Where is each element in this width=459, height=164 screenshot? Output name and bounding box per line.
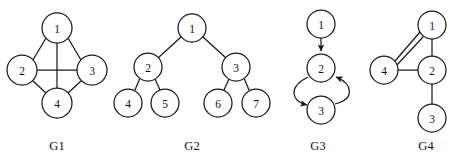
g4-node-3: 3 [418,104,446,132]
g2-edge-2-5 [155,79,160,90]
g2-node-2-label: 2 [145,62,151,74]
g4-node-1: 1 [418,11,446,39]
g2-node-6-label: 6 [215,98,221,110]
g1-edge-2-4 [33,81,46,93]
g1-node-1: 1 [42,13,72,43]
g4-node-2-label: 2 [429,65,435,77]
g1-node-4: 4 [42,88,72,118]
g2-node-5: 5 [151,89,179,117]
g3-edge-3-to-2-arc [335,77,349,104]
g1-node-4-label: 4 [54,98,60,110]
g2-edge-1-3 [203,37,226,58]
g3-node-2: 2 [307,54,335,82]
g2-node-2: 2 [134,53,162,81]
g4-node-4-label: 4 [381,65,387,77]
g1-node-3: 3 [77,55,107,85]
g1-node-3-label: 3 [89,65,95,77]
g2-node-6: 6 [204,89,232,117]
g3-node-3: 3 [307,96,335,124]
g2-node-3-label: 3 [233,62,239,74]
g1-node-2: 2 [7,55,37,85]
g1-node-1-label: 1 [54,23,60,35]
g2-edge-3-6 [224,79,229,90]
graph-diagram-canvas: 1 2 3 4 G1 [0,0,459,164]
g4-node-1-label: 1 [429,20,435,32]
g3-caption: G3 [310,139,325,153]
g2-edge-3-7 [244,78,249,90]
g4-node-2: 2 [418,56,446,84]
g3-node-1-label: 1 [318,19,324,31]
g1-node-2-label: 2 [19,65,25,77]
g2-node-5-label: 5 [162,98,168,110]
g2-caption: G2 [184,139,199,153]
g2-edge-2-4 [135,78,140,90]
g3-edge-2-to-3-arc [294,77,308,105]
g2-node-1: 1 [178,14,206,42]
g2-node-7-label: 7 [253,98,259,110]
graph-g2: 1 2 3 4 5 6 7 [114,14,270,153]
g1-edge-1-2 [33,38,46,60]
g1-edge-3-4 [68,81,81,93]
g1-caption: G1 [49,139,64,153]
g2-node-3: 3 [222,53,250,81]
graph-g3: 1 2 3 G3 [294,10,349,153]
graph-figure: 1 2 3 4 G1 [0,0,459,164]
g4-node-4: 4 [370,56,398,84]
g3-node-1: 1 [307,10,335,38]
g2-edge-1-2 [158,37,181,58]
g4-caption: G4 [418,139,434,153]
g1-edges [33,38,81,93]
g3-node-3-label: 3 [318,105,324,117]
g2-node-4: 4 [114,89,142,117]
g4-edge-1-4-parallel-b [396,37,423,66]
g4-edge-1-4-parallel-a [395,32,420,61]
g3-node-2-label: 2 [318,63,324,75]
g4-node-3-label: 3 [429,113,435,125]
g2-node-7: 7 [242,89,270,117]
g2-node-4-label: 4 [125,98,131,110]
g2-node-1-label: 1 [189,23,195,35]
graph-g1: 1 2 3 4 G1 [7,13,107,153]
g1-edge-1-3 [68,38,81,60]
graph-g4: 1 2 3 4 G4 [370,11,446,153]
